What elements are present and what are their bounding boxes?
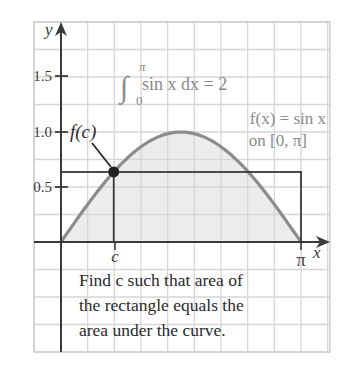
y-tick-label-1-0: 1.0	[33, 124, 52, 140]
caption-line-3: area under the curve.	[79, 320, 226, 340]
y-tick-label-0-5: 0.5	[33, 179, 52, 195]
integral-body: sin x dx = 2	[142, 74, 227, 94]
function-label-line1: f(x) = sin x	[250, 109, 327, 128]
sine-area-chart: 1.5 1.0 0.5 y x c π f(c) ∫ π 0 sin x dx …	[0, 0, 346, 367]
x-axis-label: x	[312, 243, 321, 262]
integral-upper-limit: π	[139, 59, 146, 74]
y-axis-label: y	[43, 20, 53, 39]
y-tick-label-1-5: 1.5	[33, 68, 52, 84]
point-c-fc	[108, 166, 119, 177]
function-label-line2: on [0, π]	[249, 131, 307, 150]
caption-line-2: the rectangle equals the	[79, 295, 244, 315]
integral-lower-limit: 0	[136, 93, 143, 108]
caption-line-1: Find c such that area of	[79, 270, 243, 290]
fc-leader-line	[92, 143, 111, 167]
fc-label: f(c)	[70, 121, 96, 143]
x-tick-label-c: c	[111, 247, 119, 266]
x-tick-label-pi: π	[296, 250, 305, 270]
integral-sign: ∫	[118, 70, 130, 106]
